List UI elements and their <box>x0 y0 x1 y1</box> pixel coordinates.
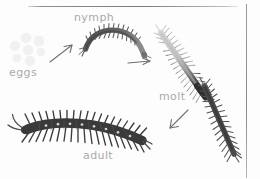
arrow-eggs-to-nymph <box>50 45 72 62</box>
stage-label-molt: molt <box>159 90 185 103</box>
life-cycle-diagram: eggs nymph molt adult <box>0 0 260 179</box>
stage-label-eggs: eggs <box>9 66 37 79</box>
adult-illustration <box>8 111 152 153</box>
stage-label-nymph: nymph <box>74 11 114 24</box>
nymph-illustration <box>79 24 151 63</box>
illustration-layer <box>0 0 260 179</box>
emerged-centipede-illustration <box>198 78 242 162</box>
arrow-molt-to-adult <box>170 110 188 128</box>
stage-label-adult: adult <box>83 149 113 162</box>
